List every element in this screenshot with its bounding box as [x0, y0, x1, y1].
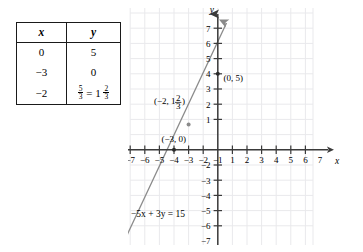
column-header-x: x: [17, 23, 67, 43]
table-row: −2 5 3 = 1 2 3: [17, 83, 121, 105]
point-0-5: [216, 72, 220, 76]
cell-y: 5: [66, 43, 120, 64]
mixed-whole-part: 1: [95, 87, 101, 99]
x-tick-label: −3: [184, 155, 194, 165]
x-tick-label: −6: [140, 155, 150, 165]
x-tick-label: −4: [169, 155, 179, 165]
point-label-fraction-denominator: 3: [176, 101, 181, 111]
point-neg3-0: [172, 148, 176, 152]
y-tick-label: 5: [206, 54, 211, 64]
y-tick-label: −7: [201, 236, 211, 246]
x-tick-label: −5: [155, 155, 165, 165]
x-tick-label: 1: [230, 155, 235, 165]
table-row: −3 0: [17, 63, 121, 83]
y-tick-label: −6: [201, 221, 211, 231]
point-label-suffix: ): [182, 96, 185, 106]
y-tick-label: 7: [206, 24, 211, 34]
math-figure: x y 0 5 −3 0 −2 5 3 = 1: [0, 0, 363, 252]
fraction-two-thirds: 2 3: [103, 85, 109, 101]
x-tick-label: 6: [303, 155, 308, 165]
x-tick-label: 5: [289, 155, 294, 165]
point-label-neg2-1-2-3: (−2, 1 2 3 ): [154, 93, 185, 112]
point-label-prefix: (−2, 1: [154, 96, 176, 106]
graph-svg: −7 −6 −5 −4 −3 −2 −1 1 2 3 4 5 6 7 7 6 5…: [128, 0, 363, 252]
point-label-neg3-0: (−3, 0): [162, 134, 187, 144]
equals-sign: =: [86, 87, 92, 99]
y-tick-label: 6: [206, 39, 211, 49]
y-tick-label: −4: [201, 191, 211, 201]
x-tick-label: −7: [128, 155, 135, 165]
equation-label: −5x + 3y = 15: [131, 209, 185, 219]
y-axis-label: y: [209, 5, 215, 15]
cell-y: 0: [66, 63, 120, 83]
table-header-row: x y: [17, 23, 121, 43]
table-row: 0 5: [17, 43, 121, 64]
x-tick-label: 7: [318, 155, 323, 165]
y-tick-label: 2: [206, 100, 211, 110]
y-tick-label: 4: [206, 69, 211, 79]
coordinate-graph: −7 −6 −5 −4 −3 −2 −1 1 2 3 4 5 6 7 7 6 5…: [128, 0, 363, 252]
x-axis-arrow: [327, 147, 334, 153]
x-tick-label: 4: [274, 155, 279, 165]
svg-text:(−2, 1: (−2, 1: [154, 96, 176, 106]
y-tick-label: −3: [201, 176, 211, 186]
y-tick-label: −2: [201, 160, 211, 170]
x-tick-label: −1: [213, 155, 223, 165]
x-tick-label: 2: [245, 155, 250, 165]
point-neg2-1-2-3: [187, 123, 191, 127]
fraction-five-thirds: 5 3: [78, 85, 84, 101]
cell-x: 0: [17, 43, 67, 64]
x-axis-label: x: [334, 156, 340, 166]
cell-y-fraction: 5 3 = 1 2 3: [66, 83, 120, 105]
column-header-y: y: [66, 23, 120, 43]
point-label-0-5: (0, 5): [224, 73, 244, 83]
cell-x: −3: [17, 63, 67, 83]
value-table: x y 0 5 −3 0 −2 5 3 = 1: [16, 22, 121, 105]
y-tick-label: −5: [201, 206, 211, 216]
x-tick-label: 3: [259, 155, 264, 165]
y-tick-label: 1: [206, 115, 211, 125]
x-tick-labels: −7 −6 −5 −4 −3 −2 −1 1 2 3 4 5 6 7: [128, 155, 323, 165]
cell-x: −2: [17, 83, 67, 105]
y-tick-label: 3: [206, 84, 211, 94]
